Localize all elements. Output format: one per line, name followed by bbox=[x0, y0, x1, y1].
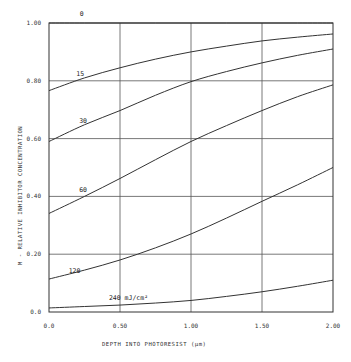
curve-label-0: 0 bbox=[80, 10, 84, 18]
x-tick-label: 0.50 bbox=[113, 322, 128, 329]
x-tick-label: 0.0 bbox=[44, 322, 55, 329]
curve-label-240: 240 mJ/cm² bbox=[109, 294, 148, 302]
curve-labels: 0153060120240 mJ/cm² bbox=[69, 10, 148, 303]
y-tick-label: 1.00 bbox=[27, 19, 42, 26]
x-tick-labels: 0.00.501.001.502.00 bbox=[44, 322, 341, 329]
y-tick-label: 0.60 bbox=[27, 135, 42, 142]
x-tick-label: 2.00 bbox=[326, 322, 341, 329]
curve-label-60: 60 bbox=[79, 186, 87, 194]
curve-label-30: 30 bbox=[79, 117, 87, 125]
x-tick-label: 1.00 bbox=[184, 322, 199, 329]
y-tick-labels: 0.00.200.400.600.801.00 bbox=[27, 19, 42, 315]
x-axis-label: DEPTH INTO PHOTORESIST (μm) bbox=[102, 341, 206, 348]
relative-inhibitor-concentration-chart: 0.00.200.400.600.801.00 0.00.501.001.502… bbox=[0, 0, 351, 362]
curve-label-15: 15 bbox=[76, 70, 84, 78]
y-axis-label: M - RELATIVE INHIBITOR CONCENTRATION bbox=[17, 126, 23, 265]
y-tick-label: 0.40 bbox=[27, 192, 42, 199]
x-tick-label: 1.50 bbox=[255, 322, 270, 329]
y-tick-label: 0.0 bbox=[30, 308, 41, 315]
y-tick-label: 0.80 bbox=[27, 77, 42, 84]
y-tick-label: 0.20 bbox=[27, 250, 42, 257]
curve-label-120: 120 bbox=[69, 267, 81, 275]
